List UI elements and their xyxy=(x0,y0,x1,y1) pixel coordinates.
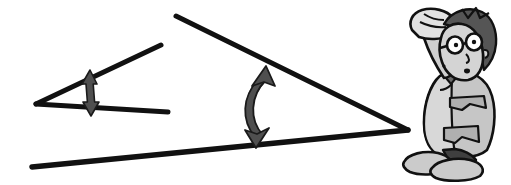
small-angle-lower-ray xyxy=(36,104,168,112)
illustration-canvas: A small narrow angle on the left and a w… xyxy=(0,0,511,185)
eye-right xyxy=(472,40,476,44)
large-angle-upper-ray xyxy=(176,16,408,130)
large-arrow-head-top xyxy=(252,66,275,86)
large-double-arrow xyxy=(245,66,275,148)
mouth xyxy=(464,69,470,74)
puzzled-person xyxy=(403,8,496,181)
glasses-bridge xyxy=(463,43,466,44)
small-angle xyxy=(36,45,168,112)
small-angle-upper-ray xyxy=(36,45,161,104)
jacket-dot xyxy=(442,64,445,67)
large-angle-lower-ray xyxy=(32,130,408,167)
angles-illustration xyxy=(0,0,511,185)
person-jacket-lapel xyxy=(424,75,455,158)
shoe-right xyxy=(430,159,482,181)
eye-left xyxy=(454,43,458,47)
